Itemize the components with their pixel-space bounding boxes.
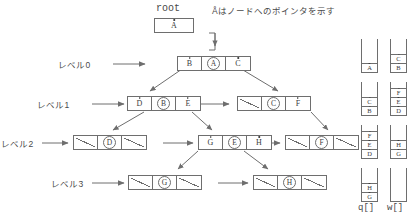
q-stack-frame-2: F E D [361,125,378,159]
stack-item-value: D [396,107,401,115]
level-label-2: レベル2 [1,137,34,149]
stack-item-value: A [367,64,372,72]
key-value: H [283,176,296,189]
pointer-value: D [137,99,143,108]
stack-item-value: D [367,150,372,158]
root-pointer-box: A [154,18,194,33]
diagram-canvas: root A Åはノードへのポインタを示す レベル0 レベル1 レベル2 レベル… [0,0,416,219]
stack-slot: A [362,63,377,72]
node-cell-key: D [98,136,122,149]
w-stack-frame-1: F E D [390,82,407,116]
node-cell-right-null [177,176,201,189]
node-cell-left: D [128,97,152,110]
stack-item-value: C [396,55,400,63]
stack-item-value: B [367,107,371,115]
node-level1-1: C F [237,96,311,111]
stack-slot: E [362,140,377,149]
q-stack-frame-3: H G [361,168,378,202]
key-value: B [157,97,170,110]
root-caption: root [156,3,180,14]
node-level2-1: G E H [198,135,272,150]
node-level2-2: F [285,135,359,150]
key-value: A [207,57,220,70]
edge-F [311,112,328,130]
node-cell-key: A [202,57,226,70]
node-cell-right-null [334,136,358,149]
pointer-value: E [186,99,191,108]
key-value: E [228,136,241,149]
q-stack-caption: q[] [358,203,374,213]
stack-slot: D [362,149,377,158]
stack-slot: G [391,149,406,158]
node-cell-left: G [199,136,223,149]
pointer-value: B [187,59,192,68]
stack-slot: C [362,97,377,106]
stack-item-value: F [397,89,401,97]
stack-item-value: C [367,98,371,106]
stack-slot: D [391,106,406,115]
w-stack-frame-2: H G [390,125,407,159]
w-stack-frame-0: C B [390,39,407,73]
stack-item-value: H [396,141,401,149]
stack-slot: G [362,192,377,201]
pointer-value: G [208,138,214,147]
node-level3-1: H [253,175,327,190]
node-cell-right-null [122,136,146,149]
stack-item-value: B [396,64,400,72]
stack-item-value: G [367,193,372,201]
level-label-0: レベル0 [58,58,91,70]
node-cell-key: G [153,176,177,189]
key-value: D [103,136,116,149]
pointer-value: F [296,99,300,108]
edge-root-to-level0 [209,33,215,50]
q-stack-frame-1: C B [361,82,378,116]
node-cell-key: C [262,97,286,110]
stack-slot: F [391,88,406,97]
node-level3-0: G [128,175,202,190]
edge-E [192,112,212,130]
stack-slot: F [362,131,377,140]
node-cell-left-null [74,136,98,149]
pointer-value: H [256,138,262,147]
root-pointer-value: A [171,21,177,30]
stack-item-value: H [367,184,372,192]
node-cell-key: B [152,97,176,110]
node-cell-left-null [254,176,278,189]
node-cell-left-null [129,176,153,189]
node-cell-left-null [238,97,262,110]
stack-slot: B [362,106,377,115]
edge-G [178,151,198,169]
node-cell-right: C [226,57,250,70]
node-cell-right-null [302,176,326,189]
level-label-1: レベル1 [37,98,70,110]
stack-item-value: E [397,98,401,106]
edge-D [113,112,144,130]
stack-item-value: E [368,141,372,149]
node-cell-left-null [286,136,310,149]
key-value: F [315,136,328,149]
w-stack-caption: w[] [387,203,403,213]
node-cell-right: H [247,136,271,149]
q-stack-frame-0: A [361,39,378,73]
node-cell-key: F [310,136,334,149]
node-level0-0: B A C [177,56,251,71]
stack-slot: H [391,140,406,149]
node-level1-0: D B E [127,96,201,111]
stack-slot: E [391,97,406,106]
stack-item-value: G [396,150,401,158]
stack-slot: B [391,63,406,72]
node-cell-right: F [286,97,310,110]
node-cell-left: B [178,57,202,70]
node-cell-key: H [278,176,302,189]
stack-item-value: F [368,132,372,140]
node-cell-key: E [223,136,247,149]
key-value: C [267,97,280,110]
edge-H [244,151,268,169]
level-label-3: レベル3 [51,177,84,189]
w-stack-frame-3 [390,168,407,202]
node-level2-0: D [73,135,147,150]
stack-slot: H [362,183,377,192]
pointer-value: C [235,59,240,68]
legend-note: Åはノードへのポインタを示す [212,4,335,16]
stack-slot: C [391,54,406,63]
